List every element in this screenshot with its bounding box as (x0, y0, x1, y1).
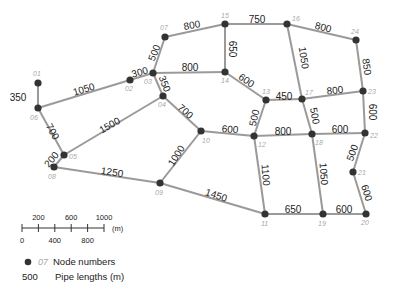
scale-label-600: 600 (65, 213, 78, 222)
pipe-length-label: 350 (10, 92, 27, 103)
pipe-length-label: 700 (176, 102, 196, 122)
pipe-23-22 (363, 91, 365, 133)
pipe-length-label: 1050 (297, 46, 311, 70)
scale-bar: 200 600 1000 0 400 800 (m) (20, 213, 124, 245)
pipe-length-label: 850 (360, 58, 373, 76)
node-number-label: 09 (155, 189, 163, 196)
network-canvas: 3501050300500800750800800650350105085060… (0, 0, 394, 299)
node-number-label: 07 (160, 24, 169, 31)
pipe-length-label: 450 (276, 91, 293, 102)
node-number-label: 08 (48, 173, 56, 180)
node-number-label: 18 (315, 139, 323, 146)
node-20 (362, 210, 369, 217)
scale-label-1000: 1000 (96, 213, 113, 222)
pipe-length-label: 800 (182, 62, 199, 73)
node-05 (60, 151, 67, 158)
pipe-length-label: 600 (237, 71, 257, 90)
pipe-length-label: 600 (336, 204, 353, 215)
legend: 07 Node numbers 500 Pipe lengths (m) (22, 256, 124, 282)
node-04 (159, 92, 166, 99)
node-06 (34, 104, 41, 111)
pipe-length-label: 600 (221, 123, 239, 135)
pipe-network-diagram: 3501050300500800750800800650350105085060… (0, 0, 394, 299)
scale-label-800: 800 (81, 236, 94, 245)
pipe-length-label: 1450 (204, 187, 229, 204)
pipe-length-label: 700 (44, 122, 62, 142)
scale-label-200: 200 (32, 213, 45, 222)
node-11 (261, 210, 268, 217)
scale-label-400: 400 (49, 236, 62, 245)
node-number-label: 22 (369, 132, 378, 139)
node-number-label: 15 (221, 12, 229, 19)
node-24 (352, 36, 359, 43)
node-23 (359, 87, 366, 94)
pipe-length-label: 500 (344, 143, 360, 163)
pipe-length-label: 1050 (318, 162, 331, 185)
node-03 (149, 69, 156, 76)
scale-unit: (m) (112, 224, 124, 233)
node-09 (156, 179, 163, 186)
node-08 (50, 163, 57, 170)
pipe-length-label: 1500 (97, 115, 122, 136)
node-number-label: 05 (69, 153, 77, 160)
node-10 (197, 127, 204, 134)
node-number-label: 02 (125, 85, 133, 92)
node-number-label: 24 (350, 28, 359, 35)
node-number-label: 01 (33, 70, 41, 77)
node-12 (250, 132, 257, 139)
pipe-length-label: 1250 (100, 165, 124, 179)
node-19 (319, 210, 326, 217)
node-number-label: 03 (144, 78, 152, 85)
node-number-label: 19 (318, 220, 326, 227)
legend-node-dot-icon (25, 259, 32, 266)
pipe-length-label: 1100 (259, 164, 272, 187)
node-number-label: 20 (360, 219, 369, 226)
legend-node-sample: 07 (38, 257, 49, 267)
node-18 (308, 130, 315, 137)
pipe-length-label: 500 (308, 107, 322, 126)
legend-pipe-text: Pipe lengths (m) (55, 271, 124, 282)
node-16 (283, 20, 290, 27)
pipe-length-label: 750 (249, 14, 266, 25)
node-01 (34, 79, 41, 86)
pipe-length-label: 650 (285, 204, 302, 215)
pipe-length-label: 500 (146, 42, 163, 62)
pipe-length-label: 800 (314, 20, 333, 35)
node-22 (361, 129, 368, 136)
node-number-label: 04 (158, 101, 166, 108)
node-02 (126, 76, 133, 83)
node-number-label: 23 (367, 88, 376, 95)
node-number-label: 06 (30, 114, 38, 121)
pipe-length-labels: 3501050300500800750800800650350105085060… (10, 14, 379, 215)
node-17 (298, 95, 305, 102)
node-number-label: 11 (261, 220, 268, 227)
node-number-label: 14 (221, 77, 229, 84)
node-21 (349, 168, 356, 175)
node-number-label: 10 (202, 137, 210, 144)
pipe-length-label: 650 (227, 41, 238, 58)
node-14 (221, 68, 228, 75)
pipe-length-label: 350 (157, 74, 174, 94)
node-13 (262, 96, 269, 103)
pipe-length-label: 1050 (72, 81, 97, 98)
scale-label-0: 0 (20, 236, 24, 245)
pipe-length-label: 800 (326, 84, 344, 97)
node-number-label: 17 (305, 89, 314, 96)
pipe-length-label: 800 (275, 126, 292, 137)
pipe-length-label: 600 (332, 124, 349, 135)
legend-pipe-sample: 500 (22, 271, 38, 282)
node-07 (161, 33, 168, 40)
pipe-length-label: 500 (247, 108, 261, 127)
node-number-label: 12 (258, 141, 266, 148)
node-15 (221, 20, 228, 27)
node-number-label: 16 (292, 15, 300, 22)
pipe-length-label: 1000 (166, 143, 187, 168)
node-number-label: 21 (357, 169, 366, 176)
legend-node-text: Node numbers (53, 256, 116, 267)
node-number-label: 13 (262, 88, 270, 95)
pipe-length-label: 600 (367, 104, 378, 121)
